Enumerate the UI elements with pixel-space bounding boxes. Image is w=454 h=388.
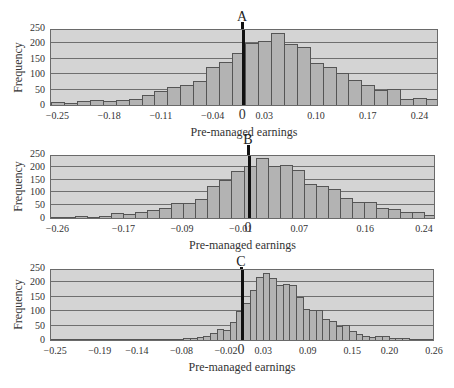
- histogram-bar: [310, 63, 324, 105]
- plot-area: [50, 155, 435, 219]
- zero-reference-line-ext: [240, 267, 243, 269]
- x-tick-label: −0.18: [98, 110, 121, 121]
- y-tick-label: 150: [19, 174, 45, 185]
- histogram-bar: [245, 43, 259, 105]
- zero-reference-line: [242, 30, 245, 105]
- x-tick-label: 0: [237, 342, 244, 358]
- gridline: [51, 166, 434, 167]
- histogram-bar: [116, 100, 130, 105]
- histogram-bar: [413, 98, 427, 105]
- x-tick-label: −0.17: [112, 223, 135, 234]
- x-tick-label: 0.09: [299, 345, 317, 356]
- zero-reference-line-ext: [241, 22, 244, 29]
- x-tick-label: −0.02: [214, 345, 237, 356]
- histogram-bar: [180, 85, 194, 105]
- x-tick-label: −0.09: [170, 223, 193, 234]
- x-tick-label: 0.17: [359, 110, 377, 121]
- histogram-bar: [374, 90, 388, 105]
- y-tick-label: 200: [19, 276, 45, 287]
- x-tick-label: 0: [245, 220, 252, 236]
- zero-reference-line: [248, 156, 251, 218]
- x-tick-label: 0.03: [256, 110, 274, 121]
- x-tick-label: 0.07: [291, 223, 309, 234]
- histogram-bar: [400, 99, 414, 105]
- y-tick-label: 0: [19, 212, 45, 223]
- x-tick-label: −0.11: [149, 110, 172, 121]
- x-tick-label: 0.24: [411, 110, 429, 121]
- y-tick-label: 250: [19, 22, 45, 33]
- x-tick-label: 0.24: [415, 223, 433, 234]
- x-tick-label: −0.08: [170, 345, 193, 356]
- histogram-bar: [51, 102, 65, 105]
- x-tick-label: −0.25: [46, 110, 69, 121]
- y-tick-label: 200: [19, 37, 45, 48]
- y-tick-label: 250: [19, 262, 45, 273]
- x-tick-label: 0.20: [381, 345, 399, 356]
- histogram-bar: [297, 47, 311, 105]
- x-tick-label: −0.04: [201, 110, 224, 121]
- y-tick-label: 200: [19, 161, 45, 172]
- x-tick-label: 0.10: [307, 110, 325, 121]
- x-tick-label: 0.15: [344, 345, 362, 356]
- y-tick-label: 0: [19, 334, 45, 345]
- y-tick-label: 50: [19, 199, 45, 210]
- histogram-bar: [271, 33, 285, 105]
- x-tick-label: −0.19: [88, 345, 111, 356]
- y-tick-label: 0: [19, 99, 45, 110]
- x-tick-label: −0.14: [125, 345, 148, 356]
- histogram-bar: [167, 87, 181, 105]
- x-tick-label: −0.26: [46, 223, 69, 234]
- histogram-bar: [77, 101, 91, 105]
- histogram-bar: [361, 85, 375, 105]
- x-tick-label: −0.25: [44, 345, 67, 356]
- y-tick-label: 100: [19, 186, 45, 197]
- histogram-bar: [154, 91, 168, 105]
- y-tick-label: 150: [19, 53, 45, 64]
- y-tick-label: 100: [19, 305, 45, 316]
- histogram-bar: [336, 73, 350, 105]
- histogram-bar: [424, 215, 435, 218]
- x-tick-label: 0.26: [425, 345, 443, 356]
- x-axis-label: Pre-managed earnings: [189, 360, 296, 375]
- histogram-bar: [284, 44, 298, 105]
- histogram-bar: [348, 80, 362, 105]
- zero-reference-line-ext: [247, 145, 250, 155]
- x-tick-label: 0.16: [357, 223, 375, 234]
- x-axis-label: Pre-managed earnings: [189, 238, 296, 253]
- y-tick-label: 50: [19, 84, 45, 95]
- histogram-bar: [258, 41, 272, 105]
- histogram-bar: [129, 99, 143, 105]
- plot-area: [50, 269, 434, 341]
- histogram-bar: [323, 67, 337, 106]
- histogram-bar: [387, 89, 401, 105]
- histogram-bar: [426, 99, 438, 105]
- histogram-bar: [428, 339, 434, 340]
- histogram-bar: [206, 67, 220, 105]
- y-tick-label: 50: [19, 320, 45, 331]
- histogram-bar: [193, 81, 207, 105]
- histogram-bar: [142, 95, 156, 105]
- histogram-bar: [64, 103, 78, 105]
- y-tick-label: 250: [19, 148, 45, 159]
- x-tick-label: 0.03: [254, 345, 272, 356]
- y-tick-label: 150: [19, 291, 45, 302]
- plot-area: [50, 29, 438, 106]
- histogram-bar: [103, 101, 117, 105]
- histogram-bar: [90, 100, 104, 105]
- zero-reference-line: [241, 270, 244, 340]
- y-tick-label: 100: [19, 68, 45, 79]
- x-tick-label: 0: [239, 107, 246, 123]
- histogram-bar: [219, 62, 233, 105]
